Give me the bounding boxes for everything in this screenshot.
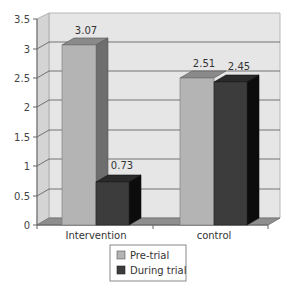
- bar-intervention-during-trial: [96, 175, 141, 225]
- legend-label: During trial: [130, 265, 187, 276]
- legend-label: Pre-trial: [130, 250, 169, 261]
- y-tick-label: 1.5: [14, 132, 30, 143]
- bar-control-during-trial: [214, 75, 259, 225]
- y-tick-label: 3.5: [14, 14, 30, 25]
- y-tick-label: 3: [24, 44, 30, 55]
- legend: Pre-trial During trial: [110, 245, 187, 281]
- y-tick-labels: 0 0.5 1 1.5 2 2.5 3 3.5: [14, 14, 30, 231]
- y-tick-label: 1: [24, 161, 30, 172]
- y-tick-label: 2.5: [14, 73, 30, 84]
- x-category-label: Intervention: [65, 230, 126, 241]
- y-tick-label: 0.5: [14, 191, 30, 202]
- y-tick-label: 2: [24, 102, 30, 113]
- data-label: 2.51: [193, 58, 215, 69]
- bar-chart: 0 0.5 1 1.5 2 2.5 3 3.5 3.07 0.73 2.51 2…: [0, 0, 298, 297]
- data-label: 0.73: [111, 160, 133, 171]
- legend-swatch-pre-trial: [117, 251, 125, 259]
- x-category-label: control: [197, 230, 232, 241]
- data-label: 2.45: [228, 61, 250, 72]
- y-tick-label: 0: [24, 220, 30, 231]
- chart-side-wall: [37, 13, 49, 225]
- y-ticks: [33, 19, 37, 225]
- legend-swatch-during-trial: [117, 266, 125, 274]
- data-label: 3.07: [75, 25, 97, 36]
